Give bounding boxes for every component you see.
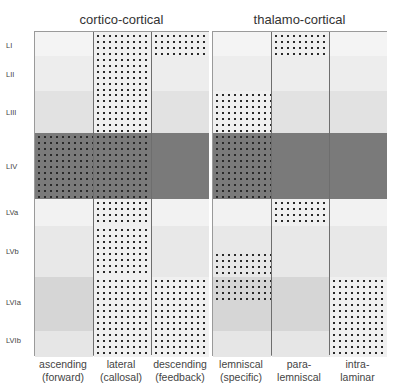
cell-LVa bbox=[330, 199, 387, 226]
col-label-paralemniscal: para-lemniscal bbox=[270, 358, 328, 384]
thalamo-cortical-panel bbox=[212, 31, 387, 356]
cell-LI bbox=[94, 32, 152, 56]
cell-LI bbox=[35, 32, 93, 56]
cell-LVIb bbox=[272, 331, 330, 357]
row-label-LVb: LVb bbox=[6, 247, 19, 256]
cortico-cortical-panel bbox=[34, 31, 209, 356]
column-paralemniscal bbox=[271, 32, 330, 355]
row-label-LII: LII bbox=[6, 70, 14, 79]
cell-LI bbox=[152, 32, 209, 56]
cell-LVa bbox=[35, 199, 93, 226]
cell-LIII bbox=[94, 91, 152, 133]
column-lemniscalspecific bbox=[213, 32, 271, 355]
column-lateralcallosal bbox=[93, 32, 152, 355]
cell-LIV bbox=[94, 133, 152, 199]
cell-LVb bbox=[272, 226, 330, 277]
cell-LIV bbox=[152, 133, 209, 199]
row-label-LIII: LIII bbox=[6, 108, 16, 117]
cell-LII bbox=[213, 56, 271, 91]
group-title-cortico-cortical: cortico-cortical bbox=[34, 12, 209, 27]
column-descendingfeedback bbox=[151, 32, 209, 355]
cell-LVIa bbox=[94, 277, 152, 331]
cell-LVb-lower bbox=[213, 251, 271, 277]
cell-LVIb bbox=[35, 331, 93, 357]
row-label-LVIa: LVIa bbox=[6, 298, 21, 307]
cell-LVa bbox=[94, 199, 152, 226]
column-ascendingforward bbox=[35, 32, 93, 355]
group-title-thalamo-cortical: thalamo-cortical bbox=[212, 12, 387, 27]
cell-LVa bbox=[152, 199, 209, 226]
cell-LI bbox=[213, 32, 271, 56]
cell-LIV bbox=[272, 133, 330, 199]
cell-LVb bbox=[35, 226, 93, 277]
row-label-LVa: LVa bbox=[6, 208, 18, 217]
cell-LIV bbox=[35, 133, 93, 199]
col-label-descending: descending(feedback) bbox=[150, 358, 210, 384]
col-label-ascending: ascending(forward) bbox=[34, 358, 92, 384]
cell-LIII bbox=[152, 91, 209, 133]
cell-LVa bbox=[213, 199, 271, 226]
cell-LII bbox=[330, 56, 387, 91]
cell-LVIa bbox=[272, 277, 330, 331]
cell-LVIa bbox=[152, 277, 209, 331]
cell-LII bbox=[94, 56, 152, 91]
cell-LII bbox=[152, 56, 209, 91]
cell-LI bbox=[330, 32, 387, 56]
row-label-LVIb: LVIb bbox=[6, 336, 21, 345]
cell-LIII bbox=[330, 91, 387, 133]
col-label-lemniscal: lemniscal(specific) bbox=[212, 358, 270, 384]
cell-LVIa-upper bbox=[213, 277, 271, 304]
cell-LVIa bbox=[330, 277, 387, 331]
cell-LII bbox=[35, 56, 93, 91]
cell-LVb bbox=[94, 226, 152, 277]
row-label-LI: LI bbox=[6, 41, 12, 50]
cell-LVIb bbox=[152, 331, 209, 357]
cell-LVIb bbox=[330, 331, 387, 357]
cell-LIII bbox=[272, 91, 330, 133]
cell-LVIb bbox=[213, 331, 271, 357]
cell-LVb bbox=[152, 226, 209, 277]
cell-LVa bbox=[272, 199, 330, 226]
col-label-lateral: lateral(callosal) bbox=[92, 358, 150, 384]
column-intralaminar bbox=[329, 32, 387, 355]
cell-LVb bbox=[330, 226, 387, 277]
col-label-intralaminar: intra-laminar bbox=[328, 358, 387, 384]
row-label-LIV: LIV bbox=[6, 162, 17, 171]
cell-LIII bbox=[213, 91, 271, 133]
cell-LVIa bbox=[35, 277, 93, 331]
cell-LIV bbox=[213, 133, 271, 199]
cell-LII bbox=[272, 56, 330, 91]
cell-LIII bbox=[35, 91, 93, 133]
cell-LI bbox=[272, 32, 330, 56]
cell-LVIb bbox=[94, 331, 152, 357]
cell-LIV bbox=[330, 133, 387, 199]
